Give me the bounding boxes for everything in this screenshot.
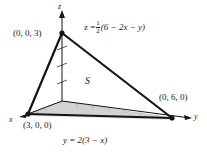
plane-equation-fraction: 12 — [96, 20, 101, 35]
base-boundary-equation-text: y = 2(3 − x) — [63, 135, 107, 145]
y-axis-label: y — [194, 113, 198, 121]
base-boundary-equation-label: y = 2(3 − x) — [63, 136, 107, 145]
fraction-denominator: 2 — [96, 28, 101, 35]
vertex-label-0-0-3: (0, 0, 3) — [13, 29, 42, 38]
plane-equation-label: z =12(6 − 2x − y) — [84, 20, 145, 35]
vertex-dot-x — [25, 111, 30, 116]
plane-equation-rhs: (6 − 2x − y) — [101, 22, 145, 32]
vertex-dot-y — [169, 115, 174, 120]
z-axis — [57, 10, 67, 101]
vertex-label-0-6-0: (0, 6, 0) — [159, 93, 188, 102]
figure-3d-triangular-surface: z =12(6 − 2x − y) (0, 0, 3) (0, 6, 0) (3… — [0, 0, 207, 152]
z-axis-label: z — [58, 3, 61, 11]
region-label-S: S — [85, 76, 90, 86]
plane-equation-lhs: z = — [84, 22, 95, 32]
x-axis-label: x — [9, 116, 13, 124]
vertex-dot-z — [59, 30, 64, 35]
vertex-label-3-0-0: (3, 0, 0) — [23, 121, 52, 130]
